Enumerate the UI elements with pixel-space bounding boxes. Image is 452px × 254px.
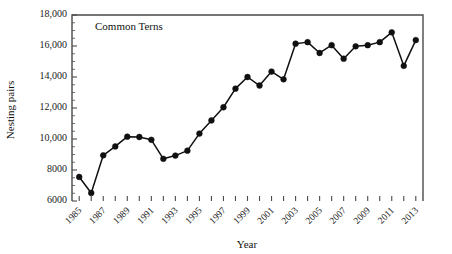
y-axis-tick-labels: 6000800010,00012,00014,00016,00018,000 (40, 8, 68, 205)
data-point (124, 134, 130, 140)
data-point (269, 69, 275, 75)
plot-frame (72, 15, 423, 201)
data-point (112, 144, 118, 150)
data-point (329, 42, 335, 48)
data-point (88, 190, 94, 196)
data-point (233, 86, 239, 92)
series-line-common-terns (79, 32, 416, 193)
data-point (341, 56, 347, 62)
data-point (317, 50, 323, 56)
data-point (136, 134, 142, 140)
x-tick-label: 1999 (231, 205, 252, 226)
x-axis-title: Year (237, 238, 258, 250)
x-tick-label: 1989 (111, 205, 132, 226)
x-tick-label: 2009 (352, 205, 373, 226)
data-point (172, 153, 178, 159)
data-point (185, 148, 191, 154)
x-tick-label: 1985 (63, 205, 84, 226)
data-point (148, 137, 154, 143)
nesting-pairs-line-chart: 6000800010,00012,00014,00016,00018,000 1… (0, 0, 452, 254)
y-tick-label: 10,000 (40, 132, 68, 143)
data-point (377, 39, 383, 45)
y-tick-label: 14,000 (40, 70, 68, 81)
chart-page: 6000800010,00012,00014,00016,00018,000 1… (0, 0, 452, 254)
data-point (221, 104, 227, 110)
plot-annotation-label: Common Terns (95, 20, 163, 32)
x-tick-label: 1995 (183, 205, 204, 226)
y-axis-title: Nesting pairs (4, 81, 16, 139)
x-tick-label: 2011 (376, 205, 396, 225)
y-tick-label: 8000 (47, 163, 67, 174)
data-series-group (76, 29, 418, 195)
x-tick-label: 1991 (135, 205, 156, 226)
data-point (401, 63, 407, 69)
y-axis-major-ticks (72, 15, 77, 201)
data-point (305, 39, 311, 45)
y-tick-label: 12,000 (40, 101, 68, 112)
data-point (245, 74, 251, 80)
data-point (293, 41, 299, 47)
x-tick-label: 2013 (400, 205, 421, 226)
data-point (389, 29, 395, 35)
y-tick-label: 18,000 (40, 8, 68, 19)
x-tick-label: 1997 (207, 205, 228, 226)
series-markers-common-terns (76, 29, 418, 195)
x-tick-label: 2005 (304, 205, 325, 226)
y-tick-label: 16,000 (40, 39, 68, 50)
x-axis-tick-labels: 1985198719891991199319951997199920012003… (63, 205, 420, 226)
data-point (365, 42, 371, 48)
data-point (76, 174, 82, 180)
plot-border (72, 15, 423, 201)
x-tick-label: 2001 (255, 205, 276, 226)
y-tick-label: 6000 (47, 194, 67, 205)
data-point (160, 156, 166, 162)
data-point (353, 43, 359, 49)
data-point (100, 152, 106, 158)
data-point (209, 118, 215, 124)
data-point (257, 83, 263, 89)
x-tick-label: 2007 (328, 205, 349, 226)
data-point (197, 131, 203, 137)
x-tick-label: 1993 (159, 205, 180, 226)
x-axis-ticks (79, 196, 416, 201)
x-tick-label: 2003 (279, 205, 300, 226)
x-tick-label: 1987 (87, 205, 108, 226)
data-point (413, 37, 419, 43)
data-point (281, 76, 287, 82)
